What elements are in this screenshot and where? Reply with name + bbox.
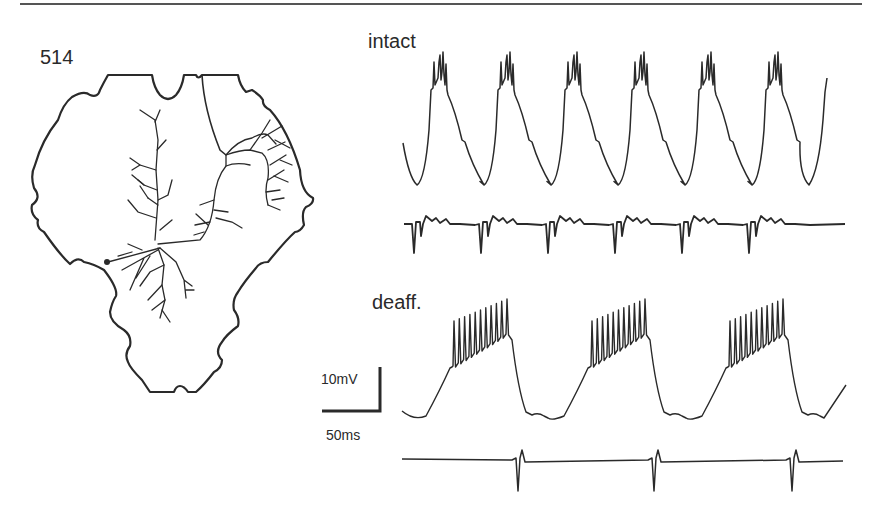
- soma-icon: [104, 259, 110, 265]
- scale-bar: [322, 367, 380, 411]
- deaff-extracellular-trace: [402, 450, 843, 491]
- intact-intracellular-trace: [403, 52, 827, 185]
- ganglion-midline: [202, 75, 226, 155]
- neuron-arbor: [104, 110, 292, 322]
- figure-canvas: [0, 0, 873, 522]
- deaff-intracellular-trace: [402, 299, 846, 419]
- intact-extracellular-trace: [404, 216, 845, 253]
- ganglion-outline: [32, 75, 314, 392]
